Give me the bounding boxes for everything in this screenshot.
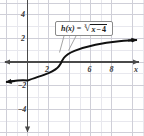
equals-sign: = (77, 24, 82, 33)
x-axis-label: x (134, 66, 138, 74)
radicand-variable: x (91, 25, 95, 34)
x-tick-label-2: 2 (45, 66, 49, 74)
cube-root-radical: 3 √ x−4 (83, 24, 107, 34)
equation-callout: h(x) = 3 √ x−4 (55, 21, 113, 36)
equation-expression: h(x) = 3 √ x−4 (61, 24, 107, 34)
x-tick-label-6: 6 (88, 66, 92, 74)
function-name: h(x) (61, 24, 75, 33)
x-tick-label-8: 8 (110, 66, 114, 74)
y-tick-label-2: 2 (21, 35, 25, 43)
radicand-operator: − (96, 25, 101, 34)
radicand-constant: 4 (102, 25, 106, 34)
graph-figure: 2 6 8 4 2 −2 −4 x h(x) = 3 √ x−4 (0, 0, 144, 136)
curve-cube-root (6, 40, 137, 82)
radical-sign-icon: √ (85, 24, 90, 32)
y-tick-label-4: 4 (21, 11, 25, 19)
y-tick-label-minus-4: −4 (18, 106, 27, 114)
radicand: x−4 (90, 24, 107, 34)
y-tick-label-minus-2: −2 (18, 82, 27, 90)
